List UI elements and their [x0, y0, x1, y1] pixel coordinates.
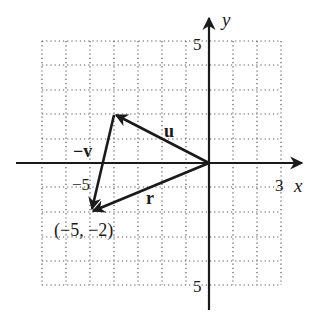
x-tick-3: 3 — [275, 176, 284, 195]
x-tick-neg5: −5 — [72, 175, 90, 194]
vector-neg-v-label: −v — [73, 141, 92, 161]
y-tick-neg5: 5 — [193, 277, 202, 296]
vector-diagram: y x 3 −5 5 5 u −v r (−5, −2) — [0, 0, 318, 314]
point-label: (−5, −2) — [54, 220, 113, 241]
coordinate-plane: y x 3 −5 5 5 u −v r (−5, −2) — [0, 0, 318, 314]
vector-r-label: r — [146, 188, 154, 208]
vector-u — [116, 115, 209, 163]
x-axis-label: x — [293, 175, 303, 196]
y-tick-5: 5 — [193, 35, 202, 54]
vector-u-label: u — [164, 121, 174, 141]
y-axis-label: y — [220, 9, 231, 30]
